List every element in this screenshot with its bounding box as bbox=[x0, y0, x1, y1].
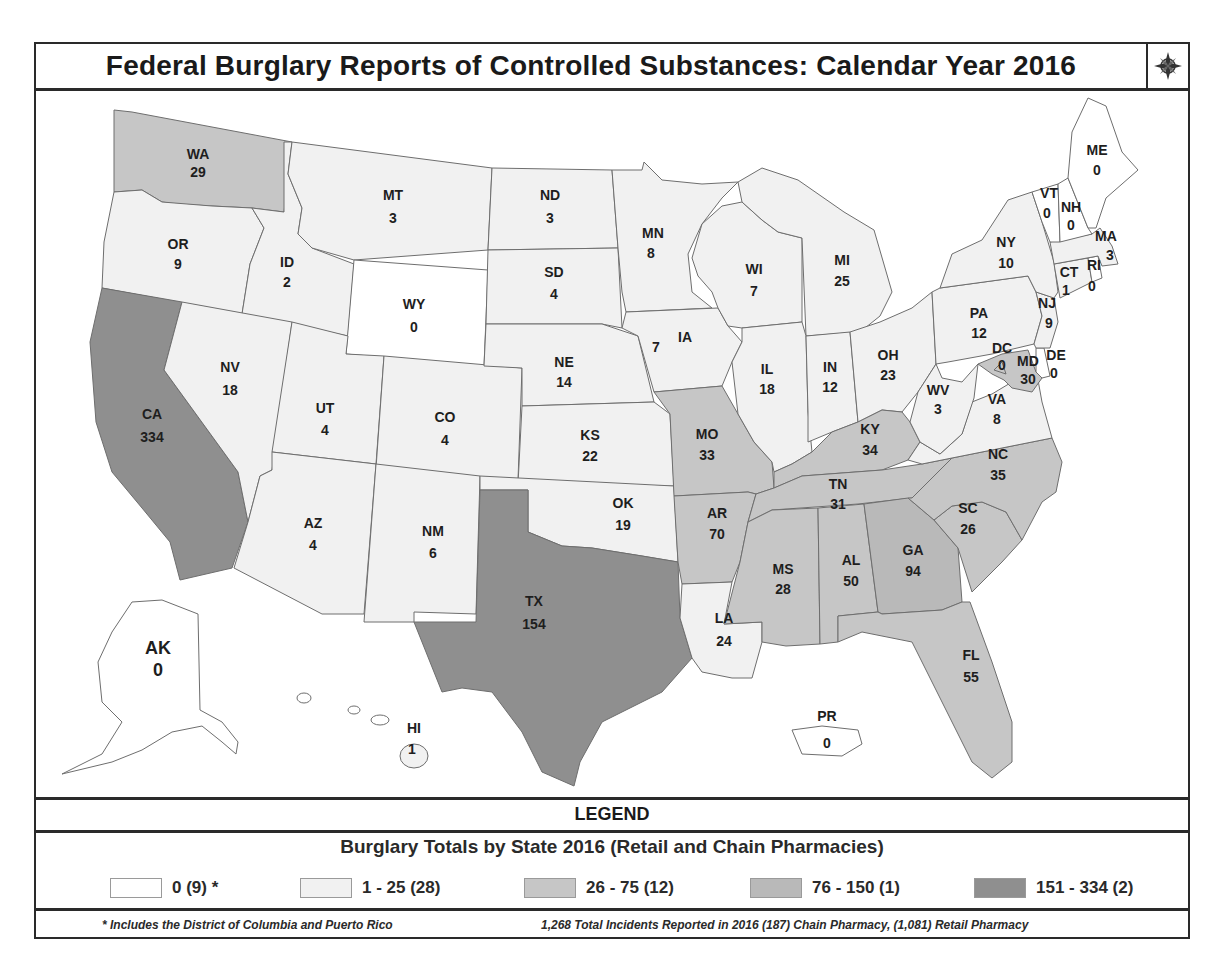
svg-text:MS: MS bbox=[773, 561, 794, 577]
svg-text:MT: MT bbox=[383, 187, 404, 203]
svg-text:CA: CA bbox=[142, 406, 162, 422]
svg-text:29: 29 bbox=[190, 164, 206, 180]
svg-text:ME: ME bbox=[1087, 142, 1108, 158]
svg-text:28: 28 bbox=[775, 581, 791, 597]
legend-label: 0 (9) * bbox=[172, 878, 218, 898]
svg-text:NH: NH bbox=[1061, 199, 1081, 215]
svg-text:4: 4 bbox=[441, 432, 449, 448]
svg-text:50: 50 bbox=[843, 573, 859, 589]
svg-text:0: 0 bbox=[1067, 217, 1075, 233]
svg-text:22: 22 bbox=[582, 448, 598, 464]
svg-text:TN: TN bbox=[829, 476, 848, 492]
svg-text:7: 7 bbox=[652, 339, 660, 355]
svg-text:23: 23 bbox=[880, 367, 896, 383]
svg-text:34: 34 bbox=[862, 442, 878, 458]
svg-text:HI: HI bbox=[407, 720, 421, 736]
footer: * Includes the District of Columbia and … bbox=[36, 908, 1188, 942]
state-WY[interactable] bbox=[346, 260, 488, 366]
state-AK[interactable] bbox=[62, 600, 238, 774]
state-NM[interactable] bbox=[364, 464, 480, 622]
svg-text:LA: LA bbox=[715, 610, 734, 626]
footnote: * Includes the District of Columbia and … bbox=[102, 918, 393, 932]
svg-text:AR: AR bbox=[707, 505, 727, 521]
svg-text:26: 26 bbox=[960, 521, 976, 537]
svg-text:3: 3 bbox=[546, 210, 554, 226]
svg-text:KY: KY bbox=[860, 421, 880, 437]
svg-text:OK: OK bbox=[613, 495, 634, 511]
svg-text:GA: GA bbox=[903, 542, 924, 558]
svg-text:3: 3 bbox=[389, 210, 397, 226]
legend-item-2: 26 - 75 (12) bbox=[524, 876, 674, 900]
legend-swatch bbox=[974, 878, 1026, 898]
svg-text:MA: MA bbox=[1095, 228, 1117, 244]
state-ND[interactable] bbox=[488, 168, 618, 250]
svg-text:0: 0 bbox=[998, 357, 1006, 373]
svg-text:CT: CT bbox=[1060, 264, 1079, 280]
svg-text:31: 31 bbox=[830, 496, 846, 512]
svg-text:9: 9 bbox=[174, 256, 182, 272]
svg-text:RI: RI bbox=[1087, 257, 1101, 273]
legend-heading: LEGEND bbox=[36, 797, 1188, 833]
svg-text:MO: MO bbox=[696, 426, 719, 442]
svg-text:VT: VT bbox=[1040, 185, 1058, 201]
svg-text:0: 0 bbox=[153, 660, 163, 680]
legend-item-0: 0 (9) * bbox=[110, 876, 218, 900]
svg-text:19: 19 bbox=[615, 517, 631, 533]
svg-text:7: 7 bbox=[750, 283, 758, 299]
svg-text:UT: UT bbox=[316, 400, 335, 416]
svg-text:0: 0 bbox=[1088, 278, 1096, 294]
svg-text:1: 1 bbox=[408, 741, 416, 757]
title-bar: Federal Burglary Reports of Controlled S… bbox=[36, 44, 1188, 91]
svg-text:NY: NY bbox=[996, 234, 1016, 250]
total-incidents: 1,268 Total Incidents Reported in 2016 (… bbox=[541, 918, 1028, 932]
svg-text:0: 0 bbox=[410, 319, 418, 335]
svg-text:14: 14 bbox=[556, 374, 572, 390]
svg-text:24: 24 bbox=[716, 633, 732, 649]
svg-text:1: 1 bbox=[1062, 282, 1070, 298]
legend-swatch bbox=[300, 878, 352, 898]
legend-swatch bbox=[110, 878, 162, 898]
svg-text:VA: VA bbox=[988, 391, 1006, 407]
svg-text:NC: NC bbox=[988, 446, 1008, 462]
svg-text:3: 3 bbox=[934, 401, 942, 417]
svg-text:IA: IA bbox=[678, 329, 692, 345]
us-map-svg: WA29 OR9 CA334 ID2 NV18 MT3 WY0 UT4 CO4 … bbox=[36, 91, 1188, 797]
svg-text:IL: IL bbox=[761, 361, 774, 377]
state-KS[interactable] bbox=[518, 402, 674, 486]
svg-text:WA: WA bbox=[187, 146, 210, 162]
svg-text:0: 0 bbox=[1050, 365, 1058, 381]
legend-swatch bbox=[524, 878, 576, 898]
svg-text:KS: KS bbox=[580, 427, 599, 443]
svg-text:WY: WY bbox=[403, 296, 426, 312]
legend-subtitle: Burglary Totals by State 2016 (Retail an… bbox=[36, 836, 1188, 858]
svg-text:MN: MN bbox=[642, 225, 664, 241]
svg-text:IN: IN bbox=[823, 359, 837, 375]
svg-text:154: 154 bbox=[522, 616, 546, 632]
page-title: Federal Burglary Reports of Controlled S… bbox=[36, 44, 1146, 88]
svg-text:25: 25 bbox=[834, 273, 850, 289]
svg-text:MD: MD bbox=[1017, 353, 1039, 369]
svg-text:8: 8 bbox=[647, 245, 655, 261]
svg-text:SC: SC bbox=[958, 500, 977, 516]
svg-text:WV: WV bbox=[927, 382, 950, 398]
compass-cell bbox=[1146, 44, 1188, 88]
legend-label: 26 - 75 (12) bbox=[586, 878, 674, 898]
svg-text:ND: ND bbox=[540, 187, 560, 203]
map-frame: Federal Burglary Reports of Controlled S… bbox=[34, 42, 1190, 939]
svg-text:35: 35 bbox=[990, 467, 1006, 483]
legend-label: 76 - 150 (1) bbox=[812, 878, 900, 898]
svg-text:4: 4 bbox=[309, 537, 317, 553]
state-FL[interactable] bbox=[838, 602, 1012, 778]
svg-text:PR: PR bbox=[817, 708, 836, 724]
svg-text:18: 18 bbox=[759, 381, 775, 397]
legend-item-4: 151 - 334 (2) bbox=[974, 876, 1133, 900]
svg-text:2: 2 bbox=[283, 274, 291, 290]
svg-text:AL: AL bbox=[842, 552, 861, 568]
svg-text:CO: CO bbox=[435, 409, 456, 425]
svg-text:0: 0 bbox=[823, 735, 831, 751]
svg-text:94: 94 bbox=[905, 563, 921, 579]
svg-text:18: 18 bbox=[222, 382, 238, 398]
svg-text:DE: DE bbox=[1046, 347, 1065, 363]
svg-text:0: 0 bbox=[1043, 205, 1051, 221]
svg-text:SD: SD bbox=[544, 264, 563, 280]
